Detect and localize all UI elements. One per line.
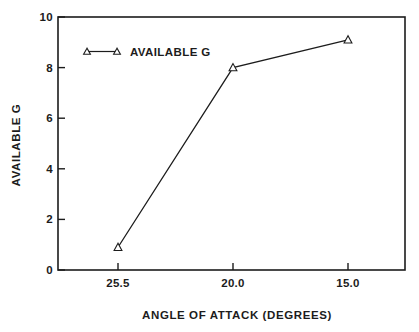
y-tick-label: 2 xyxy=(29,212,53,226)
y-axis-label: AVAILABLE G xyxy=(9,95,23,195)
chart-figure: 10 8 6 4 2 0 25.5 20.0 15.0 AVAILABLE G … xyxy=(0,0,419,332)
x-tick-label: 20.0 xyxy=(211,276,255,290)
legend: AVAILABLE G xyxy=(81,45,211,58)
y-tick-label: 6 xyxy=(29,111,53,125)
data-series-line xyxy=(114,36,352,251)
x-axis-label: ANGLE OF ATTACK (DEGREES) xyxy=(127,308,347,322)
legend-label: AVAILABLE G xyxy=(130,46,211,58)
x-tick-label: 15.0 xyxy=(326,276,370,290)
y-tick-label: 10 xyxy=(29,10,53,24)
triangle-marker-icon xyxy=(114,243,122,250)
y-tick-label: 8 xyxy=(29,61,53,75)
legend-marker-line xyxy=(81,45,123,58)
triangle-marker-icon xyxy=(344,36,352,43)
y-tick-label: 0 xyxy=(29,263,53,277)
y-tick-label: 4 xyxy=(29,162,53,176)
x-tick-label: 25.5 xyxy=(96,276,140,290)
